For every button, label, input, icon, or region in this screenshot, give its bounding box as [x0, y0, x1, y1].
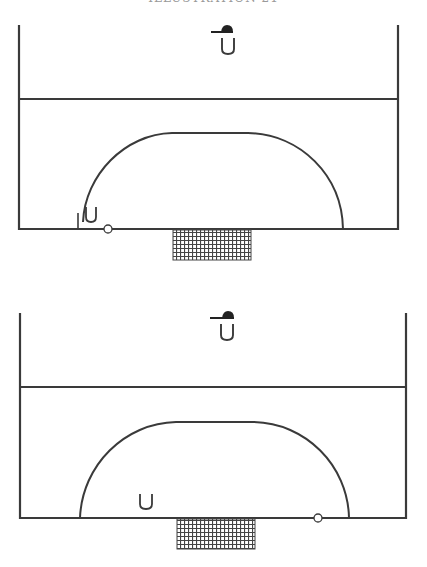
goal-area-arc [80, 422, 349, 518]
ball-icon [314, 514, 322, 522]
diagram-1 [19, 25, 398, 260]
goal-net [173, 230, 251, 260]
coach-icon [210, 311, 234, 340]
player-icon [140, 494, 152, 509]
ball-icon [104, 225, 112, 233]
coach-icon [211, 25, 234, 54]
player-icon [86, 207, 96, 222]
goal-net [177, 519, 255, 549]
goal-area-arc [83, 133, 343, 229]
diagram-2 [20, 311, 407, 549]
diagrams-canvas [0, 0, 427, 567]
